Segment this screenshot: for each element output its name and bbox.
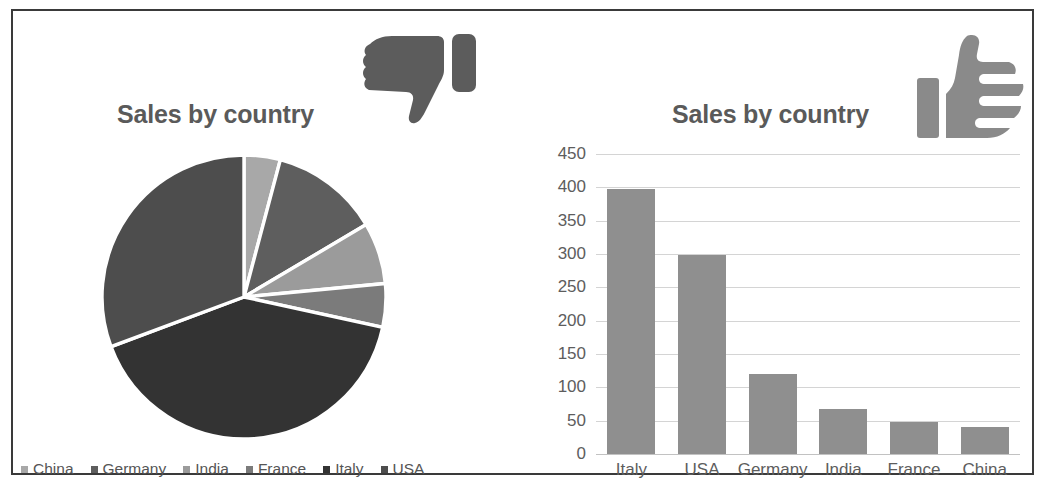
y-axis-tick-label: 100: [558, 377, 586, 397]
legend-item-label: China: [33, 460, 74, 478]
legend-swatch-icon: [246, 466, 253, 473]
legend-swatch-icon: [381, 466, 388, 473]
x-axis-tick-label: India: [825, 460, 862, 480]
gridline: [596, 421, 1020, 422]
y-axis-tick-label: 200: [558, 311, 586, 331]
bar: [749, 374, 797, 454]
bar-chart-title: Sales by country: [672, 100, 869, 129]
bar: [678, 255, 726, 454]
legend-item[interactable]: Germany: [91, 460, 167, 478]
y-axis-tick-label: 450: [558, 144, 586, 164]
gridline: [596, 187, 1020, 188]
gridline: [596, 254, 1020, 255]
x-axis-tick-label: France: [888, 460, 941, 480]
pie-chart-title: Sales by country: [117, 100, 314, 129]
bar-chart-plot-area: ItalyUSAGermanyIndiaFranceChina: [596, 154, 1020, 454]
legend-swatch-icon: [91, 466, 98, 473]
x-axis-tick-label: Italy: [616, 460, 647, 480]
pie-chart-legend: ChinaGermanyIndiaFranceItalyUSA: [21, 460, 424, 478]
pie-chart-panel: Sales by country ChinaGermanyIndiaFrance…: [14, 12, 519, 472]
legend-item-label: Germany: [103, 460, 167, 478]
legend-swatch-icon: [183, 466, 190, 473]
legend-item-label: India: [195, 460, 229, 478]
bar: [607, 189, 655, 454]
legend-item-label: Italy: [335, 460, 363, 478]
thumbs-down-icon: [362, 24, 480, 128]
bar-chart-y-axis: 450400350300250200150100500: [520, 154, 586, 454]
gridline: [596, 454, 1020, 455]
y-axis-tick-label: 300: [558, 244, 586, 264]
figure-canvas: Sales by country ChinaGermanyIndiaFrance…: [0, 0, 1045, 485]
gridline: [596, 154, 1020, 155]
pie-chart-graphic: [99, 152, 389, 442]
bar: [890, 422, 938, 454]
x-axis-tick-label: China: [962, 460, 1006, 480]
legend-swatch-icon: [21, 466, 28, 473]
y-axis-tick-label: 0: [577, 444, 586, 464]
bar-chart-panel: Sales by country 45040035030025020015010…: [520, 12, 1032, 472]
legend-item[interactable]: India: [183, 460, 229, 478]
bar: [819, 409, 867, 454]
y-axis-tick-label: 250: [558, 277, 586, 297]
legend-item-label: France: [258, 460, 306, 478]
legend-item-label: USA: [393, 460, 425, 478]
y-axis-tick-label: 50: [567, 411, 586, 431]
gridline: [596, 321, 1020, 322]
legend-item[interactable]: USA: [381, 460, 425, 478]
legend-item[interactable]: Italy: [323, 460, 363, 478]
y-axis-tick-label: 350: [558, 211, 586, 231]
x-axis-tick-label: Germany: [738, 460, 808, 480]
bar: [961, 427, 1009, 454]
y-axis-tick-label: 400: [558, 177, 586, 197]
legend-swatch-icon: [323, 466, 330, 473]
gridline: [596, 287, 1020, 288]
legend-item[interactable]: China: [21, 460, 74, 478]
x-axis-tick-label: USA: [685, 460, 720, 480]
gridline: [596, 221, 1020, 222]
gridline: [596, 354, 1020, 355]
y-axis-tick-label: 150: [558, 344, 586, 364]
legend-item[interactable]: France: [246, 460, 306, 478]
thumbs-up-icon: [915, 34, 1033, 146]
gridline: [596, 387, 1020, 388]
